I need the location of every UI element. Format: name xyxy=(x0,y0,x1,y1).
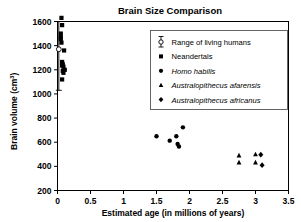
y-axis-title-suffix: ) xyxy=(9,73,19,76)
x-tick-label: 1 xyxy=(121,196,126,206)
svg-text:Brain volume (cm3): Brain volume (cm3) xyxy=(9,73,19,150)
y-tick-label: 1400 xyxy=(33,41,52,51)
data-point xyxy=(174,134,178,138)
data-point xyxy=(167,138,171,142)
y-axis-title: Brain volume (cm3) xyxy=(9,73,19,150)
y-tick-label: 600 xyxy=(37,137,51,147)
x-tick-label: 0.5 xyxy=(85,196,97,206)
data-point xyxy=(253,152,258,157)
x-axis-ticks: 00.511.522.533.5 xyxy=(55,191,295,206)
y-tick-label: 200 xyxy=(37,186,51,196)
data-point xyxy=(59,37,63,41)
legend-entry-label: Range of living humans xyxy=(172,38,252,47)
chart-legend: Range of living humansNeandertalsHomo ha… xyxy=(151,31,288,110)
y-tick-label: 1600 xyxy=(33,17,52,27)
data-point xyxy=(181,125,185,129)
x-tick-label: 2.5 xyxy=(217,196,229,206)
x-tick-label: 2 xyxy=(187,196,192,206)
data-point xyxy=(59,41,63,45)
data-point xyxy=(237,160,242,165)
legend-entry-label: Homo habilis xyxy=(172,67,216,76)
data-point xyxy=(177,144,181,148)
y-tick-label: 400 xyxy=(37,161,51,171)
data-point xyxy=(154,134,158,138)
legend-circle-icon xyxy=(159,69,163,73)
y-tick-label: 1200 xyxy=(33,65,52,75)
data-point xyxy=(61,71,65,75)
data-point xyxy=(258,152,263,158)
x-axis-title: Estimated age (in millions of years) xyxy=(102,208,245,218)
data-point xyxy=(260,162,265,168)
data-point xyxy=(62,48,66,52)
data-point xyxy=(253,160,258,165)
y-axis-title-text: Brain volume (cm xyxy=(9,78,19,150)
data-point xyxy=(59,16,63,20)
legend-entry-label: Neandertals xyxy=(172,52,213,61)
y-axis-ticks: 2004006008001000120014001600 xyxy=(33,17,58,196)
legend-entry-label: Australopithecus afarensis xyxy=(171,81,261,90)
x-tick-label: 1.5 xyxy=(151,196,163,206)
legend-entry-label: Australopithecus africanus xyxy=(171,96,261,105)
data-point xyxy=(56,47,61,52)
y-tick-label: 800 xyxy=(37,113,51,123)
data-point xyxy=(60,23,64,27)
x-tick-label: 3 xyxy=(253,196,258,206)
y-tick-label: 1000 xyxy=(33,89,52,99)
x-tick-label: 3.5 xyxy=(283,196,295,206)
data-point xyxy=(60,77,64,81)
legend-square-icon xyxy=(159,54,163,58)
data-point xyxy=(59,31,63,35)
x-tick-label: 0 xyxy=(55,196,60,206)
chart-figure: Brain Size Comparison Brain volume (cm3)… xyxy=(0,0,301,222)
legend-open-circle-icon xyxy=(159,40,163,44)
chart-title: Brain Size Comparison xyxy=(118,5,222,16)
data-point xyxy=(237,153,242,158)
